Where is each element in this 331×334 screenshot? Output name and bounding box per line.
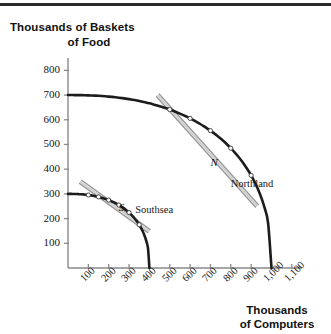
y-tick-label: 800 xyxy=(26,63,60,75)
axes-layer xyxy=(64,58,302,269)
y-tick-label: 100 xyxy=(26,236,60,248)
y-tick-label: 600 xyxy=(26,113,60,125)
data-point-marker xyxy=(249,173,253,177)
data-point-marker xyxy=(107,198,111,202)
data-point-marker xyxy=(229,146,233,150)
y-tick-label: 500 xyxy=(26,137,60,149)
x-axis-title-line1: Thousands xyxy=(225,303,329,317)
label-northland: Northland xyxy=(231,178,274,189)
point-n: N xyxy=(210,156,217,168)
x-axis-title: Thousands of Computers xyxy=(225,303,329,331)
ppf-figure: Thousands of Baskets of Food 10020030040… xyxy=(0,0,331,334)
y-tick-label: 400 xyxy=(26,162,60,174)
data-point-marker xyxy=(86,193,90,197)
data-point-marker xyxy=(96,195,100,199)
northland-tangent-edge-a xyxy=(156,96,256,207)
y-tick-label: 300 xyxy=(26,187,60,199)
y-tick-label: 700 xyxy=(26,88,60,100)
data-point-marker xyxy=(137,223,141,227)
data-point-marker xyxy=(127,210,131,214)
x-axis-title-line2: of Computers xyxy=(225,317,329,331)
y-tick-label: 200 xyxy=(26,212,60,224)
data-point-marker xyxy=(168,107,172,111)
label-southsea: Southsea xyxy=(135,204,173,215)
data-point-marker xyxy=(208,129,212,133)
point-s: S xyxy=(119,201,125,213)
data-point-marker xyxy=(188,116,192,120)
